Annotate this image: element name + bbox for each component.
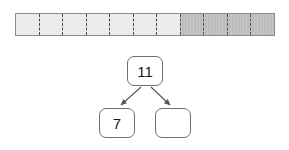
edge-root-to-right-child: [151, 87, 170, 105]
bar-segment: [250, 14, 274, 35]
segmented-bar: [15, 13, 275, 36]
tree-node-root-label: 11: [137, 64, 153, 79]
bar-segment: [109, 14, 133, 35]
tree-node-root[interactable]: 11: [127, 56, 163, 86]
bar-segment: [86, 14, 110, 35]
bar-segment: [227, 14, 251, 35]
tree-node-right-child[interactable]: [155, 108, 191, 138]
bar-segment: [180, 14, 204, 35]
edge-root-to-left-child: [121, 87, 141, 105]
bar-segment: [39, 14, 63, 35]
bar-segment: [16, 14, 39, 35]
tree-node-left-child[interactable]: 7: [99, 108, 135, 138]
bar-segment: [156, 14, 180, 35]
bar-segment: [203, 14, 227, 35]
bar-segment: [133, 14, 157, 35]
tree-node-left-child-label: 7: [113, 116, 121, 131]
tree-diagram: 11 7: [0, 46, 289, 150]
bar-segment: [62, 14, 86, 35]
